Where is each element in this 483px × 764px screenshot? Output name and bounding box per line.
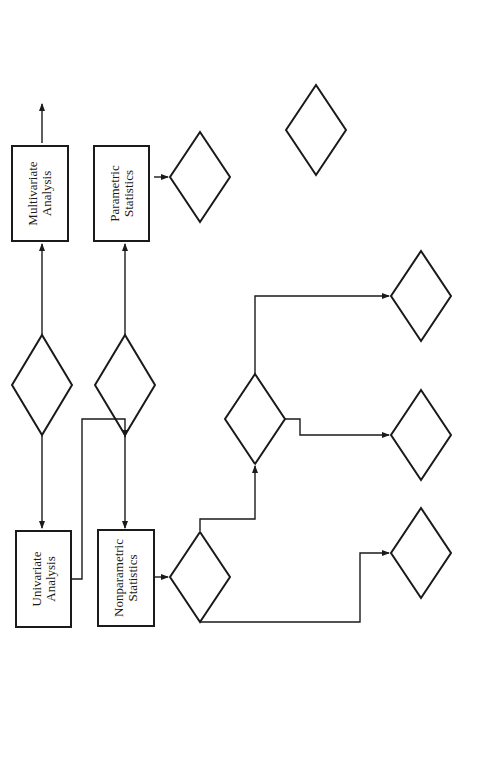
flowchart-canvas: Univariate Analysis Multivariate Analysi… (0, 0, 483, 764)
label: Analysis (40, 171, 54, 217)
multivariate-analysis-box: Multivariate Analysis (11, 145, 69, 242)
connector-lines-final (0, 0, 483, 764)
univariate-analysis-box: Univariate Analysis (15, 530, 72, 628)
label: Statistics (126, 555, 140, 602)
parametric-statistics-box: Parametric Statistics (93, 145, 150, 242)
label: Multivariate (26, 161, 40, 225)
label: Parametric (108, 165, 122, 221)
label: Statistics (122, 170, 136, 217)
label: Analysis (44, 556, 58, 602)
label: Nonparametric (112, 539, 126, 617)
label: Univariate (30, 552, 44, 607)
nonparametric-statistics-box: Nonparametric Statistics (97, 529, 155, 627)
